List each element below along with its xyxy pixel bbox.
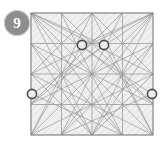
step-number-badge: 9 (4, 10, 30, 36)
diagram-stage: 9 (0, 0, 164, 143)
step-number-label: 9 (13, 16, 21, 31)
vertex-marker-top-right[interactable] (99, 40, 108, 49)
vertex-marker-left-edge[interactable] (27, 89, 36, 98)
vertex-marker-right-edge[interactable] (147, 89, 156, 98)
vertex-marker-top-left[interactable] (77, 40, 86, 49)
